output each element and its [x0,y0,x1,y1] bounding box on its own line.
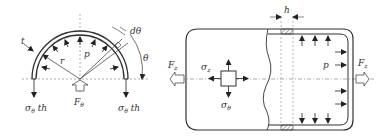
wavy-cut [263,29,271,130]
pressure-arrows-right [302,36,346,123]
label-sigma-z: σz [201,62,211,73]
fz-right-arrow [356,72,369,86]
label-fz-left: Fz [167,60,178,71]
dtheta-line-1 [80,39,122,79]
hatch-bottom [281,125,293,130]
pressure-vessel-diagram: t r p dθ θ Fθ σθ th σθ th h [0,0,390,137]
theta-arc [130,34,142,79]
f-theta-arrow [72,80,88,91]
label-p: p [84,49,90,59]
half-ring-figure: t r p dθ θ Fθ σθ th σθ th [21,14,149,114]
label-sigma-right: σθ th [118,103,140,114]
hatch-top [281,29,293,34]
stress-element [221,71,236,86]
label-fz-right: Fz [357,58,368,69]
label-p-right: p [323,60,329,70]
label-dtheta: dθ [130,26,142,36]
pressure-arrows [42,37,118,69]
cylinder-figure: h p σz σθ Fz Fz [167,5,375,130]
thickness-arrow [24,44,33,51]
label-t: t [21,36,25,46]
fz-left-arrow [170,72,184,86]
cylinder-right-inner [268,34,348,125]
label-f-theta: Fθ [73,97,84,108]
label-sigma-theta: σθ [221,100,231,111]
label-h: h [284,5,290,15]
label-sigma-left: σθ th [25,103,47,114]
label-r: r [60,56,65,66]
label-theta: θ [143,53,149,63]
